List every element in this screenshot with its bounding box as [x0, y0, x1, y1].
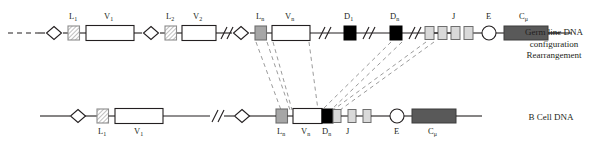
label-bcell-Ln: Ln — [277, 127, 285, 136]
connector-J-left — [333, 42, 426, 110]
segment-L1[interactable] — [97, 109, 109, 123]
connector-Dn-right — [331, 42, 402, 110]
label-bcell-V1: V1 — [134, 127, 143, 136]
segment-E[interactable] — [390, 109, 404, 123]
connector-Vn-left — [273, 42, 292, 110]
connector-Ln-right — [267, 42, 290, 110]
segment-Dn[interactable] — [322, 109, 333, 123]
germ-line-row — [8, 26, 572, 41]
label-germ-Dn: Dn — [390, 12, 399, 21]
connector-J-right — [340, 42, 434, 110]
label-germ-L2: L2 — [166, 12, 174, 21]
break-mark-icon — [212, 110, 224, 122]
segment-J[interactable] — [451, 27, 460, 40]
segment-J[interactable] — [333, 110, 341, 123]
segment-L1[interactable] — [68, 26, 80, 40]
segment-V2[interactable] — [182, 26, 216, 41]
label-germ-Vn: Vn — [285, 12, 294, 21]
label-germ-J: J — [452, 12, 455, 21]
rss-diamond-icon — [234, 27, 249, 40]
segment-Dn[interactable] — [390, 26, 402, 40]
segment-V1[interactable] — [115, 109, 163, 124]
label-bcell-J: J — [346, 127, 349, 136]
segment-Vn[interactable] — [272, 26, 310, 41]
segment-J[interactable] — [348, 110, 356, 123]
rss-diamond-icon — [235, 110, 250, 123]
segment-V1[interactable] — [86, 26, 134, 41]
segment-J[interactable] — [438, 27, 447, 40]
segment-Vn[interactable] — [293, 109, 322, 124]
connector-Ln — [256, 42, 281, 110]
label-germ-D1: D1 — [344, 12, 353, 21]
b-cell-row — [40, 109, 482, 124]
recombination-connectors — [256, 42, 434, 110]
connector-Vn-right — [309, 42, 318, 110]
label-bcell-E: E — [394, 127, 399, 136]
label-germ-L1: L1 — [69, 12, 77, 21]
segment-Ln[interactable] — [255, 26, 267, 40]
segment-J[interactable] — [464, 27, 473, 40]
segment-E[interactable] — [482, 26, 496, 40]
rss-diamond-icon — [71, 110, 86, 123]
segment-J[interactable] — [425, 27, 434, 40]
label-germ-V1: V1 — [104, 12, 113, 21]
label-germ-E: E — [486, 12, 491, 21]
label-bcell-Cmu: Cμ — [428, 127, 437, 136]
side-label-germ-line-1: Germ line DNA — [508, 27, 600, 39]
segment-Ln[interactable] — [276, 109, 288, 123]
segment-L2[interactable] — [165, 26, 177, 40]
rss-diamond-icon — [47, 27, 62, 40]
side-label-germ-line: Germ line DNA configuration Rearrangemen… — [508, 27, 600, 62]
side-label-b-cell-1: B Cell DNA — [505, 112, 597, 124]
segment-D1[interactable] — [344, 26, 356, 40]
label-bcell-L1: L1 — [98, 127, 106, 136]
label-germ-Ln: Ln — [256, 12, 264, 21]
dna-rearrangement-diagram — [0, 0, 600, 149]
segment-J[interactable] — [363, 110, 371, 123]
label-germ-V2: V2 — [193, 12, 202, 21]
segment-Cmu[interactable] — [412, 109, 456, 123]
side-label-germ-line-3: Rearrangement — [508, 50, 600, 62]
label-bcell-Dn: Dn — [322, 127, 331, 136]
connector-Dn-left — [322, 42, 391, 110]
label-germ-Cmu: Cμ — [519, 12, 528, 21]
figure-canvas: L1 V1 L2 V2 Ln Vn D1 Dn J E Cμ L1 V1 Ln … — [0, 0, 600, 149]
label-bcell-Vn: Vn — [301, 127, 310, 136]
rss-diamond-icon — [144, 27, 159, 40]
side-label-germ-line-2: configuration — [508, 39, 600, 51]
side-label-b-cell: B Cell DNA — [505, 112, 597, 124]
